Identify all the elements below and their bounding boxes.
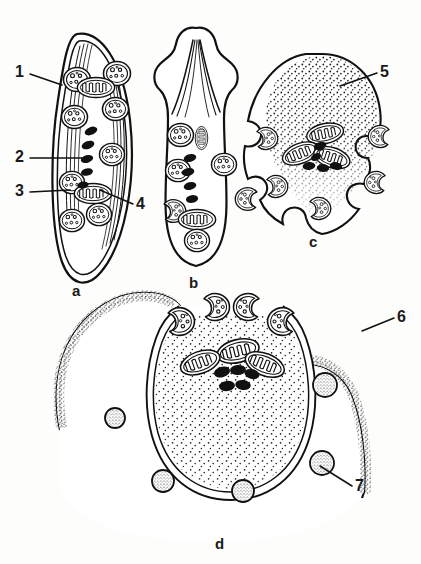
panel-letter-b: b [189, 275, 198, 290]
callout-label-6: 6 [397, 309, 406, 325]
mitochondrion [195, 126, 208, 149]
nucleus [87, 203, 112, 225]
granule [310, 451, 334, 475]
nucleus [62, 105, 88, 128]
granule [313, 373, 337, 397]
granule [232, 480, 254, 502]
nucleus-notched [235, 188, 257, 211]
panel-letter-a: a [72, 283, 80, 298]
nucleus [212, 153, 237, 175]
nucleus-notched [364, 171, 385, 193]
callout-label-5: 5 [380, 64, 389, 80]
granule [152, 470, 174, 492]
mitochondrion [178, 210, 215, 230]
callout-label-2: 2 [15, 149, 24, 165]
granule [105, 408, 125, 428]
panel-letter-c: c [309, 234, 317, 249]
leader-6 [362, 318, 394, 331]
figure-root: 1 2 3 4 5 6 7 a b c d [0, 0, 421, 564]
panel-b [154, 28, 257, 266]
panel-c [244, 54, 389, 234]
leader-1 [30, 74, 62, 85]
panel-letter-d: d [215, 536, 224, 551]
panel-d [57, 293, 366, 542]
nucleus [60, 209, 85, 231]
mitochondrion [77, 78, 114, 98]
callout-label-7: 7 [355, 478, 364, 494]
nucleus [103, 97, 129, 120]
callout-label-3: 3 [15, 183, 24, 199]
nucleus [185, 229, 210, 251]
callout-label-1: 1 [15, 64, 24, 80]
nucleus [168, 123, 194, 146]
nucleus-notched [368, 125, 389, 147]
nucleus [100, 143, 125, 165]
callout-label-4: 4 [136, 196, 145, 212]
